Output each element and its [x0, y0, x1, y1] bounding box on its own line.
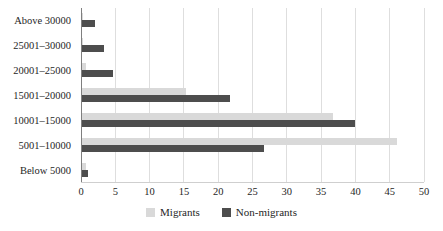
legend: MigrantsNon-migrants — [0, 206, 443, 218]
x-axis-labels: 05101520253035404550 — [81, 186, 424, 199]
x-tick-label-10: 10 — [144, 186, 155, 197]
x-tick-label-35: 35 — [316, 186, 327, 197]
x-tick-label-30: 30 — [282, 186, 293, 197]
category-axis-line — [81, 8, 82, 182]
legend-label-migrants: Migrants — [160, 206, 200, 218]
bar-group-above-30000 — [81, 8, 424, 33]
bar-migrants-5001-10000 — [81, 138, 397, 145]
y-axis-labels: Above 3000025001–3000020001–2500015001–2… — [0, 8, 76, 183]
category-label-15001-20000: 15001–20000 — [0, 83, 76, 108]
bar-migrants-below-5000 — [81, 163, 86, 170]
legend-item-non-migrants: Non-migrants — [222, 206, 297, 218]
bar-group-5001-10000 — [81, 132, 424, 157]
category-label-5001-10000: 5001–10000 — [0, 133, 76, 158]
plot-area — [81, 8, 424, 183]
x-tick-label-0: 0 — [78, 186, 83, 197]
x-tick-label-15: 15 — [179, 186, 190, 197]
bar-non-migrants-25001-30000 — [81, 45, 104, 52]
category-label-10001-15000: 10001–15000 — [0, 108, 76, 133]
x-tick-label-5: 5 — [113, 186, 118, 197]
bar-non-migrants-5001-10000 — [81, 145, 264, 152]
bar-migrants-15001-20000 — [81, 88, 186, 95]
category-label-25001-30000: 25001–30000 — [0, 33, 76, 58]
x-tick-label-50: 50 — [419, 186, 430, 197]
bar-non-migrants-20001-25000 — [81, 70, 113, 77]
x-tick-label-45: 45 — [384, 186, 395, 197]
bar-non-migrants-above-30000 — [81, 20, 95, 27]
category-label-below-5000: Below 5000 — [0, 158, 76, 183]
legend-label-non-migrants: Non-migrants — [236, 206, 297, 218]
bar-group-below-5000 — [81, 157, 424, 182]
x-tick-label-25: 25 — [247, 186, 258, 197]
bar-chart-figure: Above 3000025001–3000020001–2500015001–2… — [0, 0, 443, 231]
bar-group-10001-15000 — [81, 107, 424, 132]
x-tick-label-20: 20 — [213, 186, 224, 197]
bar-non-migrants-10001-15000 — [81, 120, 355, 127]
bar-non-migrants-below-5000 — [81, 170, 88, 177]
bar-group-25001-30000 — [81, 33, 424, 58]
bar-group-15001-20000 — [81, 83, 424, 108]
bar-group-20001-25000 — [81, 58, 424, 83]
x-tick-label-40: 40 — [350, 186, 361, 197]
category-label-above-30000: Above 30000 — [0, 8, 76, 33]
bar-migrants-20001-25000 — [81, 63, 86, 70]
legend-swatch-migrants — [146, 208, 155, 217]
bar-migrants-10001-15000 — [81, 113, 333, 120]
legend-item-migrants: Migrants — [146, 206, 200, 218]
bar-non-migrants-15001-20000 — [81, 95, 230, 102]
legend-swatch-non-migrants — [222, 208, 231, 217]
category-label-20001-25000: 20001–25000 — [0, 58, 76, 83]
